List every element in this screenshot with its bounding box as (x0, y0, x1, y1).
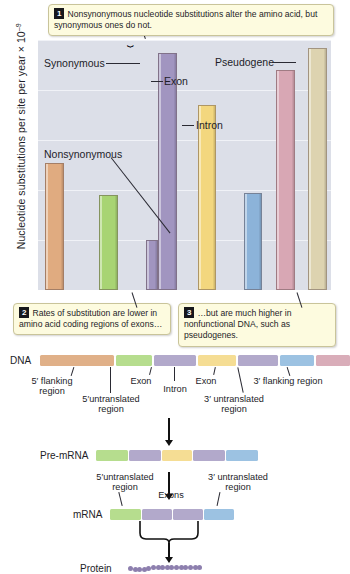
label-pseudogene: Pseudogene (215, 56, 274, 68)
segment-3-utr (280, 355, 314, 366)
y-axis-title: Nucleotide substitutions per site per ye… (15, 11, 28, 261)
mrna-label-5-utr: 5′untranslatedregion (70, 472, 180, 492)
dna-label-5-utr: 5′untranslatedregion (56, 394, 166, 414)
segment-3-utr (226, 450, 258, 461)
bar-highlight (309, 49, 311, 290)
segment-3-flanking (316, 355, 350, 366)
row-label-mrna: mRNA (73, 509, 102, 520)
callout-1-text: Nonsynonymous nucleotide substitutions a… (54, 9, 317, 30)
segment-exon-1 (154, 355, 196, 366)
bar-7 (308, 48, 327, 291)
label-exon: Exon (164, 75, 188, 87)
bar-highlight (100, 196, 102, 289)
segment-exon-1 (129, 450, 161, 461)
row-label-dna: DNA (10, 355, 31, 366)
label-synonymous: Synonymous (44, 57, 105, 69)
bar-highlight (46, 164, 48, 290)
gridline-5 (38, 40, 331, 41)
segment-3-utr (204, 509, 234, 520)
segment-5-utr (110, 509, 141, 520)
leader-intron (182, 125, 194, 126)
segment-intron (162, 450, 192, 461)
callout-1-number: 1 (54, 8, 64, 19)
tick-5-flanking (71, 367, 75, 376)
premrna-track (96, 450, 260, 461)
bar-highlight (277, 71, 279, 289)
tick-intron (174, 367, 175, 381)
tick-3-flanking (287, 367, 291, 376)
exon-pair-brace: ⏟ (127, 36, 134, 47)
segment-5-utr (96, 450, 128, 461)
leader-exon (151, 81, 163, 82)
dna-label-3-utr: 3′ untranslatedregion (176, 394, 292, 414)
bar-2 (146, 240, 158, 290)
segment-exon-1 (142, 509, 172, 520)
segment-exon-2 (173, 509, 203, 520)
segment-5-flanking (40, 355, 114, 366)
bar-highlight (199, 106, 201, 289)
bar-1 (99, 195, 118, 290)
bar-3 (158, 53, 177, 291)
label-intron: Intron (196, 119, 223, 131)
leader-synonymous (106, 63, 140, 64)
segment-intron (198, 355, 236, 366)
translation-brace (138, 521, 202, 543)
tick-exon-1 (149, 367, 152, 375)
gene-expression-diagram: DNA 5′ flankingregion 5′untranslatedregi… (0, 300, 339, 569)
bar-6 (276, 70, 295, 290)
leader-pseudogene (272, 62, 296, 63)
protein-chain (128, 565, 202, 572)
dna-label-exon-2: Exon (186, 376, 226, 386)
mrna-label-3-utr: 3′ untranslatedregion (182, 472, 294, 492)
y-axis-exponent: –9 (15, 23, 22, 31)
arrow-translation (168, 543, 170, 557)
bar-highlight (147, 241, 149, 289)
tick-exon-2 (213, 367, 216, 375)
dna-label-5-flanking: 5′ flankingregion (6, 376, 98, 396)
callout-1: 1Nonsynonymous nucleotide substitutions … (48, 4, 334, 36)
arrow-transcription (168, 418, 170, 440)
tick-mrna-5-utr (118, 492, 122, 506)
row-label-protein: Protein (80, 563, 112, 574)
bar-0 (45, 163, 64, 291)
segment-exon-2 (238, 355, 278, 366)
protein-bead (197, 565, 202, 570)
tick-5-utr (110, 367, 111, 393)
bar-5 (244, 193, 263, 291)
y-axis-title-text: Nucleotide substitutions per site per ye… (15, 31, 27, 249)
dna-label-3-flanking: 3′ flanking region (238, 376, 338, 386)
row-label-premrna: Pre-mRNA (40, 450, 88, 461)
bar-4 (198, 105, 217, 290)
bar-highlight (245, 194, 247, 290)
dna-track (40, 355, 350, 366)
segment-exon-2 (193, 450, 225, 461)
mrna-track (110, 509, 234, 520)
bar-chart: Nucleotide substitutions per site per ye… (0, 0, 339, 300)
bar-highlight (159, 54, 161, 290)
segment-5-utr (116, 355, 152, 366)
tick-mrna-3-utr (217, 492, 221, 506)
